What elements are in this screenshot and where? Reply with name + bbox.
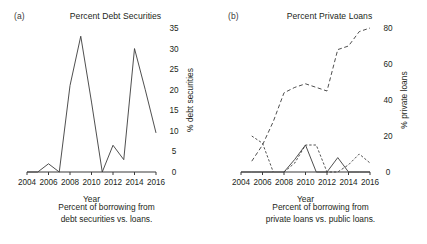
plot-area-b: 2004200620082010201220142016020406080Yea… <box>214 20 427 205</box>
y-tick-label: 20 <box>169 86 179 95</box>
y-tick-label: 30 <box>169 45 179 54</box>
y-tick-label: 10 <box>169 127 179 136</box>
plot-area-a: 2004200620082010201220142016051015202530… <box>0 20 213 205</box>
x-tick-label: 2012 <box>318 178 337 187</box>
y-tick-label: 35 <box>169 24 179 33</box>
y-tick-label: 40 <box>383 96 393 105</box>
series-declining-series <box>252 136 274 172</box>
y-tick-label: 60 <box>383 60 393 69</box>
series--debt-securities <box>27 36 156 172</box>
x-tick-label: 2008 <box>275 178 294 187</box>
x-tick-label: 2010 <box>82 178 101 187</box>
x-tick-label: 2006 <box>253 178 272 187</box>
y-tick-label: 0 <box>172 168 177 177</box>
y-tick-label: 25 <box>169 65 179 74</box>
chart-panel-b: (b) Percent Private Loans 20042006200820… <box>214 0 427 244</box>
x-tick-label: 2008 <box>61 178 80 187</box>
x-tick-label: 2012 <box>104 178 123 187</box>
caption-line-1: Percent of borrowing from <box>0 202 213 214</box>
y-tick-label: 15 <box>169 106 179 115</box>
y-tick-label: 5 <box>172 147 177 156</box>
y-tick-label: 0 <box>386 168 391 177</box>
caption-line-2: private loans vs. public loans. <box>214 214 427 226</box>
chart-caption-b: Percent of borrowing from private loans … <box>214 202 427 225</box>
x-tick-label: 2010 <box>296 178 315 187</box>
x-tick-label: 2004 <box>18 178 37 187</box>
chart-panel-a: (a) Percent Debt Securities 200420062008… <box>0 0 213 244</box>
x-tick-label: 2006 <box>39 178 58 187</box>
series-episodic-series <box>284 145 370 172</box>
x-tick-label: 2014 <box>125 178 144 187</box>
caption-line-1: Percent of borrowing from <box>214 202 427 214</box>
y-axis-title: % private loans <box>399 71 409 128</box>
x-tick-label: 2016 <box>361 178 380 187</box>
y-tick-label: 80 <box>383 24 393 33</box>
x-tick-label: 2014 <box>339 178 358 187</box>
series-private-loans-trend <box>252 28 370 161</box>
chart-caption-a: Percent of borrowing from debt securitie… <box>0 202 213 225</box>
figure-container: (a) Percent Debt Securities 200420062008… <box>0 0 427 244</box>
y-tick-label: 20 <box>383 132 393 141</box>
y-axis-title: % debt securities <box>185 68 195 132</box>
x-tick-label: 2004 <box>232 178 251 187</box>
caption-line-2: debt securities vs. loans. <box>0 214 213 226</box>
x-tick-label: 2016 <box>147 178 166 187</box>
